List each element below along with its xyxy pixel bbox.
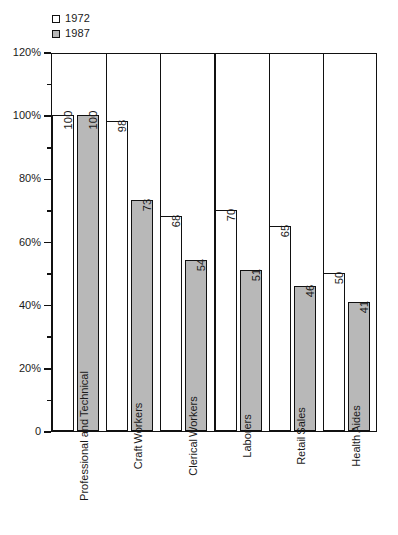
bar-value-label: 65	[280, 224, 291, 237]
bar-1972-3: 68	[160, 216, 182, 431]
bar-value-label: 73	[142, 199, 153, 212]
y-axis-tick-label: 60%	[1, 237, 41, 248]
bar-1972-4: 70	[215, 210, 237, 431]
bar-1987-2: 73	[131, 200, 153, 431]
bar-value-label: 100	[88, 111, 99, 130]
bar-chart: 1972 1987 020%40%60%80%100%120% 10010098…	[0, 0, 398, 535]
category-label-line: Professional and	[78, 419, 91, 501]
bar-value-label: 68	[171, 215, 182, 228]
y-axis-tick	[44, 115, 51, 117]
category-label-line: Sales	[295, 407, 308, 435]
y-axis-tick-label: 80%	[1, 173, 41, 184]
category-label-line: Laborers	[241, 414, 254, 457]
bar-1972-6: 50	[323, 273, 345, 431]
category-label-line: Workers	[187, 396, 200, 437]
category-label-line: Clerical	[187, 439, 200, 476]
category-label-line: Workers	[132, 403, 145, 444]
category-label-line: Retail	[295, 437, 308, 465]
x-axis-category-labels: Professional andTechnicalCraftWorkersCle…	[51, 436, 377, 535]
chart-legend: 1972 1987	[52, 12, 172, 42]
y-axis-tick-label: 120%	[1, 47, 41, 58]
bar-value-label: 51	[251, 269, 262, 282]
y-axis-tick	[44, 242, 51, 244]
bar-1987-4: 51	[240, 270, 262, 431]
bar-value-label: 100	[63, 111, 74, 130]
bar-value-label: 50	[334, 272, 345, 285]
y-axis-tick-label: 0	[1, 426, 41, 437]
category-label-line: Technical	[78, 371, 91, 417]
category-label-line: Health	[350, 435, 363, 467]
bar-1972-5: 65	[269, 226, 291, 431]
category-label-3: ClericalWorkers	[160, 436, 214, 535]
category-label-6: HealthAides	[323, 436, 377, 535]
legend-swatch-1972	[52, 15, 60, 23]
category-label-5: RetailSales	[268, 436, 322, 535]
category-label-4: Laborers	[214, 436, 268, 535]
y-axis-tick	[44, 179, 51, 181]
y-axis-tick	[44, 305, 51, 307]
plot-area: 10010098736854705165465041	[51, 53, 377, 432]
legend-label-1972: 1972	[65, 13, 90, 24]
legend-item-1987: 1987	[52, 27, 172, 40]
y-axis-tick-label: 20%	[1, 363, 41, 374]
legend-label-1987: 1987	[65, 28, 90, 39]
bar-value-label: 46	[305, 284, 316, 297]
bar-1972-1: 100	[52, 115, 74, 431]
y-axis-tick	[44, 368, 51, 370]
bar-1972-2: 98	[106, 121, 128, 431]
bar-value-label: 98	[117, 120, 128, 133]
bar-value-label: 70	[226, 209, 237, 222]
y-axis-tick-label: 40%	[1, 300, 41, 311]
category-label-line: Aides	[350, 405, 363, 433]
bar-value-label: 54	[196, 259, 207, 272]
y-axis-tick	[44, 431, 51, 433]
category-label-line: Craft	[132, 445, 145, 469]
category-label-2: CraftWorkers	[105, 436, 159, 535]
category-label-1: Professional andTechnical	[51, 436, 105, 535]
legend-swatch-1987	[52, 30, 60, 38]
y-axis: 020%40%60%80%100%120%	[0, 53, 51, 432]
y-axis-tick	[44, 52, 51, 54]
bar-value-label: 41	[359, 300, 370, 313]
y-axis-tick-label: 100%	[1, 110, 41, 121]
legend-item-1972: 1972	[52, 12, 172, 25]
